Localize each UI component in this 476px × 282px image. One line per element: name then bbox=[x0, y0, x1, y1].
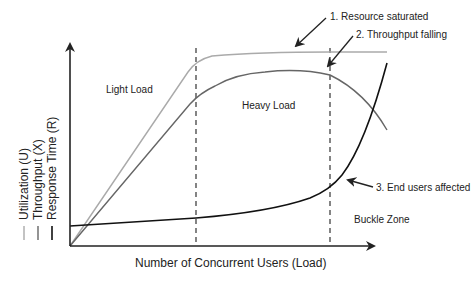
annotation-arrow-2 bbox=[328, 36, 353, 66]
throughput-curve bbox=[70, 71, 387, 246]
annotation-arrow-3 bbox=[348, 180, 373, 187]
legend-utilization: Utilization (U) bbox=[17, 148, 31, 220]
region-heavy-load: Heavy Load bbox=[242, 100, 295, 111]
annotation-end-users-affected: 3. End users affected bbox=[376, 182, 470, 193]
annotation-arrow-1 bbox=[296, 18, 326, 46]
annotation-resource-saturated: 1. Resource saturated bbox=[330, 11, 428, 22]
legend-response-time: Response Time (R) bbox=[45, 117, 59, 220]
performance-chart: Utilization (U) Throughput (X) Response … bbox=[0, 0, 476, 282]
utilization-curve bbox=[70, 52, 387, 246]
legend-throughput: Throughput (X) bbox=[31, 139, 45, 220]
annotation-throughput-falling: 2. Throughput falling bbox=[356, 29, 447, 40]
region-light-load: Light Load bbox=[106, 84, 153, 95]
x-axis-label: Number of Concurrent Users (Load) bbox=[135, 256, 326, 270]
region-buckle-zone: Buckle Zone bbox=[354, 214, 410, 225]
